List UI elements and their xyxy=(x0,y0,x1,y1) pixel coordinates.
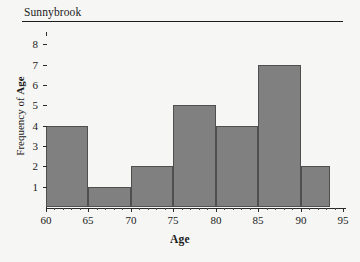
x-minor-tick xyxy=(63,208,64,210)
x-minor-tick xyxy=(182,208,183,210)
x-minor-tick xyxy=(80,208,81,210)
x-minor-tick xyxy=(165,208,166,210)
x-minor-tick xyxy=(97,208,98,210)
histogram-bar xyxy=(46,126,88,207)
x-tick-label: 95 xyxy=(332,215,354,226)
x-minor-tick xyxy=(156,208,157,210)
histogram-bar xyxy=(258,65,300,208)
x-minor-tick xyxy=(148,208,149,210)
x-minor-tick xyxy=(139,208,140,210)
y-tick-mark xyxy=(43,187,47,188)
y-tick-mark xyxy=(43,166,47,167)
x-minor-tick xyxy=(199,208,200,210)
y-tick-mark xyxy=(43,85,47,86)
x-minor-tick xyxy=(54,208,55,210)
y-tick-mark xyxy=(43,105,47,106)
x-tick-mark xyxy=(343,208,344,212)
y-tick-mark xyxy=(43,126,47,127)
x-minor-tick xyxy=(233,208,234,210)
y-axis-title-bold: Age xyxy=(14,76,26,94)
histogram-bar xyxy=(131,166,173,207)
histogram-screenshot: Sunnybrook 12345678 6065707580859095 Age… xyxy=(0,0,360,262)
x-tick-mark xyxy=(88,208,89,212)
title-divider-rule xyxy=(22,21,343,22)
y-tick-mark xyxy=(43,44,47,45)
x-tick-label: 90 xyxy=(290,215,312,226)
x-axis-title: Age xyxy=(0,233,360,245)
x-minor-tick xyxy=(190,208,191,210)
histogram-bar xyxy=(301,166,331,207)
x-tick-mark xyxy=(216,208,217,212)
y-tick-label: 7 xyxy=(24,60,38,71)
x-minor-tick xyxy=(326,208,327,210)
x-tick-label: 60 xyxy=(35,215,57,226)
x-minor-tick xyxy=(267,208,268,210)
x-tick-label: 85 xyxy=(247,215,269,226)
x-minor-tick xyxy=(275,208,276,210)
y-tick-label: 8 xyxy=(24,39,38,50)
y-tick-mark xyxy=(43,146,47,147)
histogram-bar xyxy=(88,187,130,207)
x-minor-tick xyxy=(241,208,242,210)
y-tick-label: 3 xyxy=(24,141,38,152)
x-minor-tick xyxy=(114,208,115,210)
chart-title: Sunnybrook xyxy=(24,6,81,19)
y-axis-title-prefix: Frequency of xyxy=(14,95,26,156)
x-minor-tick xyxy=(122,208,123,210)
x-minor-tick xyxy=(105,208,106,210)
histogram-bar xyxy=(173,105,215,207)
x-minor-tick xyxy=(292,208,293,210)
x-tick-label: 70 xyxy=(120,215,142,226)
y-tick-mark xyxy=(43,65,47,66)
chart-title-area: Sunnybrook xyxy=(22,6,343,24)
histogram-bar xyxy=(216,126,258,207)
y-axis-title: Frequency of Age xyxy=(14,51,26,181)
x-minor-tick xyxy=(224,208,225,210)
y-tick-label: 1 xyxy=(24,182,38,193)
x-minor-tick xyxy=(318,208,319,210)
x-minor-tick xyxy=(207,208,208,210)
plot-area xyxy=(46,36,343,207)
x-tick-mark xyxy=(173,208,174,212)
x-minor-tick xyxy=(284,208,285,210)
x-tick-mark xyxy=(46,208,47,212)
x-minor-tick xyxy=(250,208,251,210)
y-tick-label: 5 xyxy=(24,100,38,111)
x-tick-label: 65 xyxy=(77,215,99,226)
x-tick-mark xyxy=(258,208,259,212)
x-tick-label: 75 xyxy=(162,215,184,226)
y-tick-label: 6 xyxy=(24,80,38,91)
x-tick-label: 80 xyxy=(205,215,227,226)
y-tick-label: 4 xyxy=(24,121,38,132)
x-minor-tick xyxy=(309,208,310,210)
x-minor-tick xyxy=(335,208,336,210)
x-minor-tick xyxy=(71,208,72,210)
y-tick-label: 2 xyxy=(24,161,38,172)
x-tick-mark xyxy=(131,208,132,212)
x-tick-mark xyxy=(301,208,302,212)
